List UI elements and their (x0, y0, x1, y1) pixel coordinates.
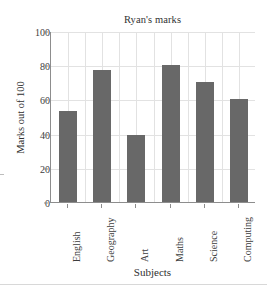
bar-geography (93, 70, 111, 202)
x-tick-mark (67, 204, 68, 208)
x-tick-label: Science (208, 231, 219, 262)
gridline-vertical (222, 32, 223, 202)
x-tick-mark (238, 204, 239, 208)
gridline-vertical (154, 32, 155, 202)
y-tick-mark (44, 66, 48, 67)
bar-science (196, 82, 214, 202)
x-axis-ticks: EnglishGeographyArtMathsScienceComputing (50, 204, 255, 266)
y-tick-mark (44, 32, 48, 33)
x-tick-mark (135, 204, 136, 208)
y-tick-mark (44, 100, 48, 101)
bar-art (127, 135, 145, 202)
x-axis-label: Subjects (50, 266, 255, 278)
x-tick-label: Maths (174, 237, 185, 262)
bar-english (59, 111, 77, 202)
figure-left-stub (0, 174, 4, 175)
y-tick-mark (44, 134, 48, 135)
gridline-vertical (85, 32, 86, 202)
y-axis-ticks: 020406080100 (0, 32, 50, 204)
x-tick-label: English (71, 231, 82, 262)
figure-bottom-rule (0, 284, 267, 285)
x-tick-label: Art (139, 249, 150, 262)
bar-computing (230, 99, 248, 202)
bar-chart-figure: Ryan's marks Marks out of 100 0204060801… (0, 0, 267, 289)
x-tick-mark (101, 204, 102, 208)
chart-title: Ryan's marks (50, 14, 255, 25)
bar-maths (162, 65, 180, 202)
x-tick-mark (204, 204, 205, 208)
plot-area (50, 32, 255, 203)
y-tick-mark (44, 168, 48, 169)
gridline-vertical (119, 32, 120, 202)
x-tick-mark (170, 204, 171, 208)
x-tick-label: Geography (105, 218, 116, 262)
x-tick-label: Computing (242, 217, 253, 262)
gridline-vertical (188, 32, 189, 202)
y-tick-mark (44, 203, 48, 204)
